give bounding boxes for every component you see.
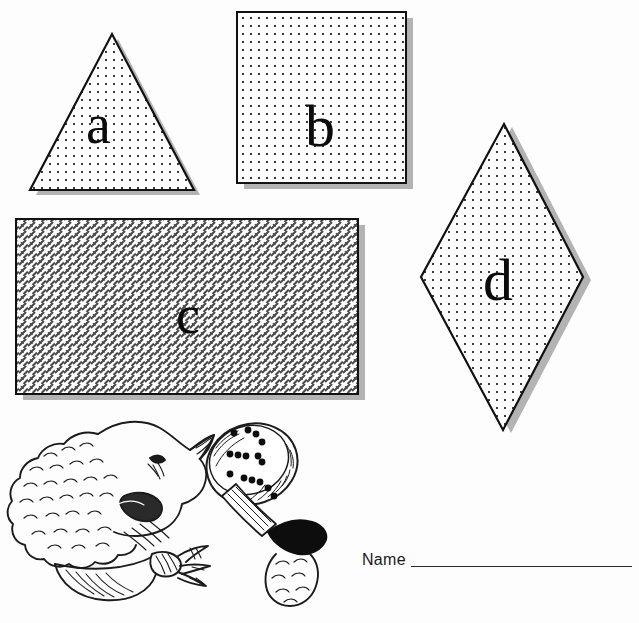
sheep-with-magnifying-glass-illustration [0,404,350,623]
lamb-leg-fleece [265,554,318,606]
illustration-graphic [0,404,350,623]
triangle-graphic [14,24,210,198]
magnifying-glass [196,412,308,536]
name-signature-line[interactable] [411,566,632,567]
ribbon-loop-mid [180,565,210,575]
lamb-neck-top [55,556,154,569]
triangle-outline [30,34,194,190]
shape-triangle[interactable] [14,24,210,198]
name-label: Name [362,551,406,571]
hoof-hand [268,520,326,554]
worksheet-page: a b [0,0,639,623]
name-field[interactable]: Name [362,545,632,571]
shape-label-b: b [305,96,335,156]
shape-label-d: d [483,250,513,310]
lamb-eye [150,456,165,463]
shape-label-a: a [86,96,111,152]
lamb-ear [120,493,162,522]
lamb-ribbon [150,552,181,577]
shape-label-c: c [176,288,200,342]
